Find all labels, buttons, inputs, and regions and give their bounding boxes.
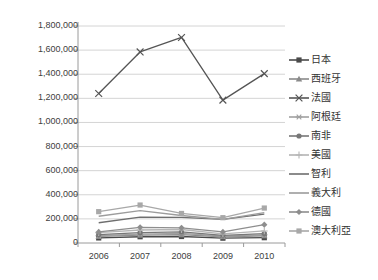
legend-item-日本[interactable]: 日本 [288, 50, 378, 69]
line-chart: 0200,000400,000600,000800,0001,000,0001,… [0, 0, 378, 280]
data-point [296, 114, 302, 119]
legend-item-澳大利亞[interactable]: 澳大利亞 [288, 221, 378, 240]
legend-item-label: 義大利 [310, 187, 341, 199]
data-point [296, 133, 301, 138]
legend-marker-icon [288, 147, 310, 163]
legend-item-南非[interactable]: 南非 [288, 126, 378, 145]
legend-marker-icon [288, 166, 310, 182]
legend-marker-icon [288, 185, 310, 201]
x-tick-label: 2007 [118, 251, 162, 261]
legend-item-label: 澳大利亞 [310, 225, 351, 237]
legend-item-label: 智利 [310, 168, 331, 180]
legend-marker-icon [288, 52, 310, 68]
legend-marker-icon [288, 71, 310, 87]
legend-marker-icon [288, 223, 310, 239]
legend-item-美國[interactable]: 美國 [288, 145, 378, 164]
legend-marker-icon [288, 90, 310, 106]
legend-item-label: 法國 [310, 92, 331, 104]
legend-item-label: 美國 [310, 149, 331, 161]
data-point [296, 57, 301, 62]
x-tick-label: 2008 [160, 251, 204, 261]
legend-item-label: 南非 [310, 130, 331, 142]
legend-item-label: 阿根廷 [310, 111, 341, 123]
legend-item-阿根廷[interactable]: 阿根廷 [288, 107, 378, 126]
data-point [296, 228, 301, 233]
legend-marker-icon [288, 204, 310, 220]
legend-item-label: 德國 [310, 206, 331, 218]
legend-item-label: 西班牙 [310, 73, 341, 85]
legend-item-label: 日本 [310, 54, 331, 66]
data-point [296, 208, 302, 214]
x-axis: 20062007200820092010 [0, 0, 290, 280]
legend-item-智利[interactable]: 智利 [288, 164, 378, 183]
x-tick-label: 2009 [201, 251, 245, 261]
legend-item-西班牙[interactable]: 西班牙 [288, 69, 378, 88]
x-tick-label: 2006 [77, 251, 121, 261]
legend-item-義大利[interactable]: 義大利 [288, 183, 378, 202]
x-tick-label: 2010 [242, 251, 286, 261]
legend-marker-icon [288, 128, 310, 144]
legend-item-德國[interactable]: 德國 [288, 202, 378, 221]
legend-item-法國[interactable]: 法國 [288, 88, 378, 107]
chart-legend: 日本西班牙法國阿根廷南非美國智利義大利德國澳大利亞 [288, 50, 378, 240]
data-point [296, 151, 303, 158]
legend-marker-icon [288, 109, 310, 125]
